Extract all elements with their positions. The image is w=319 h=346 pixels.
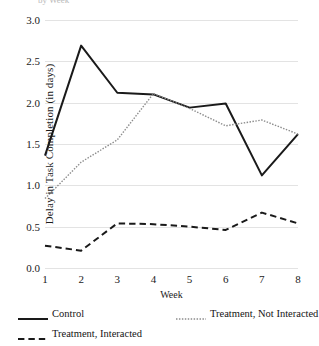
series-lines — [45, 20, 298, 268]
x-tick-label: 8 — [295, 274, 301, 285]
x-tick-label: 7 — [259, 274, 265, 285]
legend-label: Treatment, Interacted — [52, 328, 142, 339]
legend-swatch-icon — [176, 309, 206, 317]
legend-swatch-icon — [18, 329, 48, 337]
legend-item[interactable]: Control — [18, 306, 84, 320]
series-line — [45, 46, 298, 176]
legend-label: Control — [52, 308, 84, 319]
y-tick-label: 2.0 — [26, 97, 40, 108]
x-tick-label: 3 — [115, 274, 121, 285]
y-tick-label: 1.5 — [26, 139, 40, 150]
x-tick-label: 5 — [187, 274, 193, 285]
y-tick-label: 1.0 — [26, 180, 40, 191]
x-tick-label: 2 — [78, 274, 84, 285]
y-axis-label: Delay in Task Completion (in days) — [44, 64, 55, 224]
series-line — [45, 213, 298, 251]
legend-swatch-icon — [18, 309, 48, 317]
y-tick-label: 0.0 — [26, 263, 40, 274]
legend-label: Treatment, Not Interacted — [210, 308, 318, 319]
chart-legend: ControlTreatment, Not InteractedTreatmen… — [18, 306, 310, 344]
chart-title-fragment: by Week — [38, 0, 278, 5]
y-tick-label: 2.5 — [26, 56, 40, 67]
x-tick-label: 1 — [42, 274, 48, 285]
y-tick-label: 0.5 — [26, 221, 40, 232]
legend-item[interactable]: Treatment, Interacted — [18, 326, 142, 340]
x-tick-label: 6 — [223, 274, 229, 285]
plot-area: 0.00.51.01.52.02.53.0 12345678 Delay in … — [45, 20, 298, 268]
chart-figure: by Week 0.00.51.01.52.02.53.0 12345678 D… — [0, 0, 319, 346]
x-tick-label: 4 — [151, 274, 157, 285]
x-axis-label: Week — [45, 290, 298, 300]
y-tick-label: 3.0 — [26, 15, 40, 26]
series-line — [45, 94, 298, 199]
legend-item[interactable]: Treatment, Not Interacted — [176, 306, 318, 320]
gridline — [45, 268, 298, 269]
